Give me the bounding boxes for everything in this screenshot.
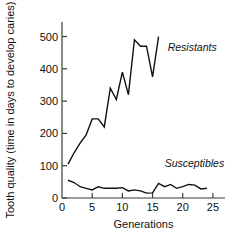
y-axis-tick-label: 100 xyxy=(40,160,58,172)
chart-container: 0100200300400500 0510152025 ResistantsSu… xyxy=(0,0,250,247)
x-axis-title: Generations xyxy=(114,218,174,230)
x-axis-tick-label: 20 xyxy=(177,201,189,213)
y-axis-tick-label: 300 xyxy=(40,95,58,107)
x-axis-tick-label: 5 xyxy=(89,201,95,213)
tooth-quality-line-chart: 0100200300400500 0510152025 ResistantsSu… xyxy=(0,0,250,247)
x-axis-tick-label: 10 xyxy=(116,201,128,213)
y-axis-tick-label: 0 xyxy=(52,192,58,204)
series-label-susceptibles: Susceptibles xyxy=(165,157,225,169)
x-axis-tick-label: 25 xyxy=(207,201,219,213)
y-axis-tick-label: 200 xyxy=(40,127,58,139)
y-axis-title: Tooth quality (time in days to develop c… xyxy=(4,1,16,218)
series-label-resistants: Resistants xyxy=(168,41,218,53)
y-axis-tick-label: 400 xyxy=(40,63,58,75)
x-axis-tick-label: 15 xyxy=(146,201,158,213)
x-axis-tick-label: 0 xyxy=(59,201,65,213)
y-axis-tick-label: 500 xyxy=(40,31,58,43)
